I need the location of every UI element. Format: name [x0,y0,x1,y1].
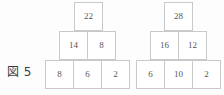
left-pyramid: 22 14 8 8 6 2 [45,0,131,95]
left-pyramid-cell-bottom-3: 2 [101,60,130,89]
left-pyramid-middle-row: 14 8 [59,31,116,60]
right-pyramid-cell-bottom-1: 6 [136,60,165,89]
right-pyramid-cell-middle-2: 12 [178,31,207,60]
right-pyramid-cell-top-1: 28 [164,2,193,31]
right-pyramid-cell-bottom-2: 10 [164,60,193,89]
figure-container: 図 5 22 14 8 8 6 2 28 16 12 6 10 2 [0,0,224,95]
right-pyramid: 28 16 12 6 10 2 [136,0,219,95]
right-pyramid-cell-middle-1: 16 [150,31,179,60]
left-pyramid-bottom-row: 8 6 2 [45,60,130,89]
left-pyramid-top-row: 22 [74,2,103,31]
right-pyramid-cell-bottom-3: 2 [192,60,221,89]
right-pyramid-middle-row: 16 12 [150,31,207,60]
left-pyramid-cell-middle-2: 8 [87,31,116,60]
right-pyramid-top-row: 28 [164,2,193,31]
left-pyramid-cell-middle-1: 14 [59,31,88,60]
left-pyramid-cell-bottom-1: 8 [45,60,74,89]
figure-label: 図 5 [7,62,32,79]
left-pyramid-cell-top-1: 22 [74,2,103,31]
left-pyramid-cell-bottom-2: 6 [73,60,102,89]
right-pyramid-bottom-row: 6 10 2 [136,60,221,89]
